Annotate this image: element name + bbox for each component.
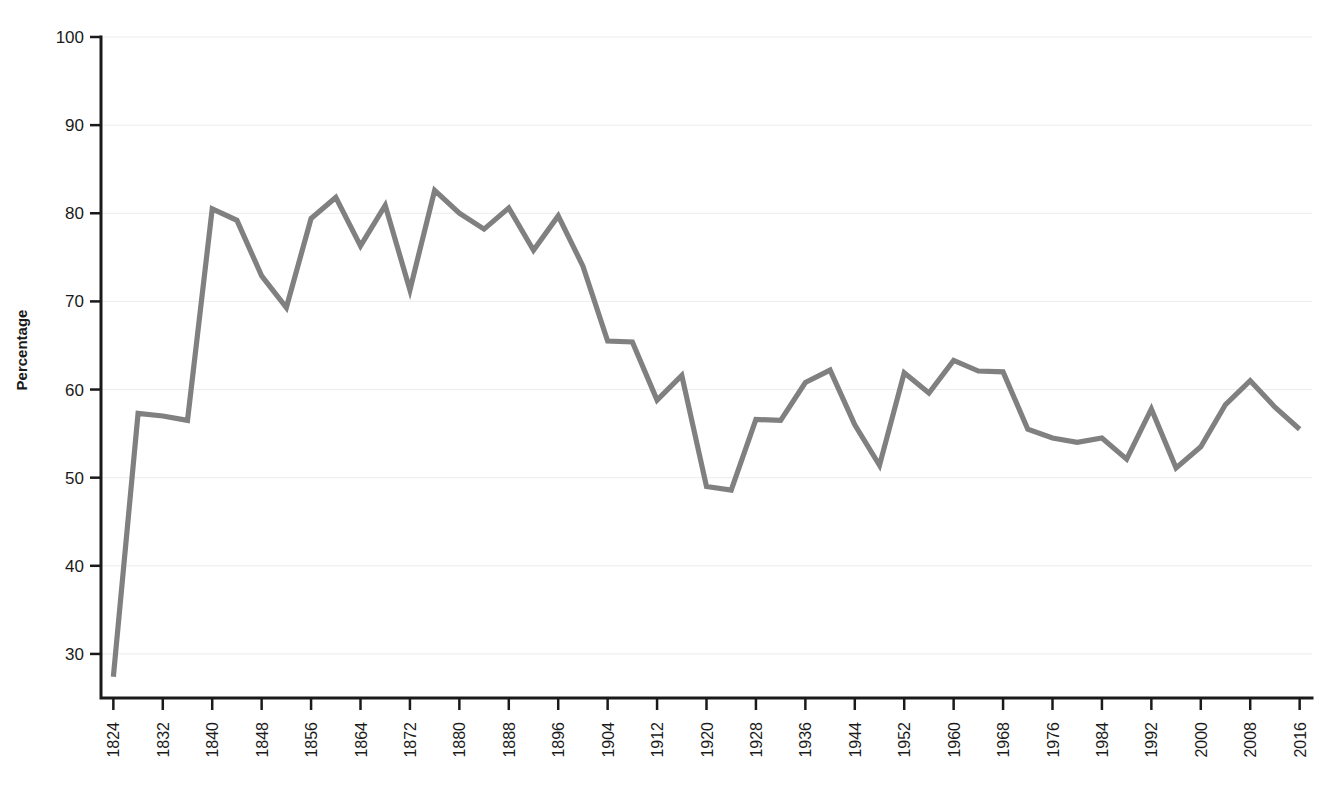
x-tick-label: 1944 (847, 722, 864, 758)
y-tick-label: 90 (65, 116, 84, 135)
x-tick-label: 1920 (699, 722, 716, 758)
y-tick-label: 30 (65, 645, 84, 664)
x-tick-label: 1984 (1094, 722, 1111, 758)
data-series-group (113, 190, 1299, 676)
series-line (113, 190, 1299, 676)
gridlines-group (101, 37, 1312, 654)
x-tick-label: 1864 (353, 722, 370, 758)
x-tick-label: 1976 (1045, 722, 1062, 758)
y-tick-label: 100 (56, 28, 84, 47)
x-tick-label: 1832 (155, 722, 172, 758)
x-tick-label: 1824 (105, 722, 122, 758)
x-tick-label: 1856 (303, 722, 320, 758)
y-tick-label: 60 (65, 381, 84, 400)
y-tick-label: 40 (65, 557, 84, 576)
chart-canvas: 30405060708090100 1824183218401848185618… (0, 0, 1334, 798)
y-tick-label: 80 (65, 204, 84, 223)
x-tick-label: 1952 (896, 722, 913, 758)
y-tick-label: 50 (65, 469, 84, 488)
x-tick-label: 1960 (946, 722, 963, 758)
x-tick-label: 1912 (649, 722, 666, 758)
x-tick-label: 1992 (1143, 722, 1160, 758)
axes-group (101, 37, 1312, 698)
x-tick-label: 2016 (1292, 722, 1309, 758)
x-tick-label: 1928 (748, 722, 765, 758)
y-tick-label: 70 (65, 292, 84, 311)
x-tick-label: 1936 (797, 722, 814, 758)
axis-lines (101, 37, 1312, 698)
x-tick-label: 1888 (501, 722, 518, 758)
x-tick-label: 1896 (550, 722, 567, 758)
x-tick-label: 1968 (995, 722, 1012, 758)
x-tick-label: 1872 (402, 722, 419, 758)
x-tick-label: 2000 (1193, 722, 1210, 758)
x-tick-label: 1840 (204, 722, 221, 758)
x-tick-label: 2008 (1242, 722, 1259, 758)
y-axis-title: Percentage (13, 310, 30, 391)
x-tick-labels-group: 1824183218401848185618641872188018881896… (105, 698, 1308, 758)
x-tick-label: 1880 (451, 722, 468, 758)
x-tick-label: 1904 (600, 722, 617, 758)
x-tick-label: 1848 (254, 722, 271, 758)
voter-turnout-line-chart: 30405060708090100 1824183218401848185618… (0, 0, 1334, 798)
y-tick-labels-group: 30405060708090100 (56, 28, 101, 664)
